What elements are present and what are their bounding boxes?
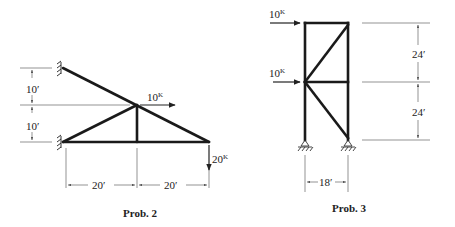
dim-v-bottom: 10′ [26, 120, 39, 132]
load-10k-label: 10K [147, 91, 163, 103]
prob2-caption: Prob. 2 [123, 207, 158, 219]
left-diagonal [63, 105, 137, 142]
prob3-caption: Prob. 3 [332, 202, 367, 214]
dim-24-bottom: 24′ [412, 106, 425, 118]
pin-support-left-icon [298, 140, 313, 151]
pin-support-right-icon [341, 140, 356, 151]
load-mid-label: 10K [269, 67, 285, 79]
prob2-truss: 10′ 10′ 20′ 20′ 10K 20K Prob. 2 [20, 61, 228, 219]
dim-h-right: 20′ [164, 179, 177, 191]
dim-24-top: 24′ [412, 48, 425, 60]
load-20k-label: 20K [212, 153, 228, 165]
dim-h-left: 20′ [92, 179, 105, 191]
load-top-label: 10K [269, 8, 285, 20]
fixed-support-bottom-icon [57, 135, 61, 150]
dim-v-top: 10′ [26, 83, 39, 95]
truss-figures: 10′ 10′ 20′ 20′ 10K 20K Prob. 2 [0, 0, 455, 227]
dim-18: 18′ [319, 176, 332, 188]
fixed-support-top-icon [57, 61, 61, 76]
prob3-frame: 24′ 24′ 18′ 10K 10K Prob. 3 [269, 8, 430, 214]
